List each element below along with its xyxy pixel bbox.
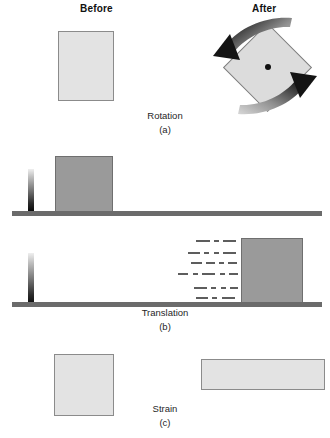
motion-dash — [206, 262, 215, 264]
motion-dash — [211, 287, 216, 289]
motion-dash — [191, 262, 202, 264]
motion-dash — [223, 252, 236, 254]
motion-dash — [194, 287, 207, 289]
motion-dash — [220, 273, 225, 275]
motion-dash — [188, 252, 200, 254]
caption-rotation-sub: (a) — [0, 124, 330, 135]
motion-dash — [196, 240, 210, 242]
caption-strain: Strain — [0, 403, 330, 414]
motion-dash — [178, 273, 188, 275]
motion-dash — [202, 273, 215, 275]
motion-dash — [214, 252, 219, 254]
motion-dash — [221, 287, 226, 289]
column-header-before: Before — [80, 3, 113, 14]
motion-dash — [193, 273, 198, 275]
geology-deformation-figure: Before After — [0, 0, 330, 438]
motion-dash — [204, 252, 209, 254]
caption-translation: Translation — [0, 307, 330, 318]
motion-dash — [214, 240, 219, 242]
motion-dash — [212, 297, 217, 299]
translation-after-square — [241, 238, 303, 306]
translation-before-square — [55, 156, 113, 213]
motion-dash — [223, 240, 236, 242]
rotation-arrow-bottom-right — [238, 72, 317, 114]
rotation-arrow-top-left — [213, 18, 292, 60]
caption-rotation: Rotation — [0, 110, 330, 121]
motion-dash — [219, 262, 224, 264]
strain-after-rectangle — [201, 359, 325, 390]
motion-dash — [229, 273, 238, 275]
motion-dash — [222, 297, 235, 299]
motion-dash — [196, 297, 208, 299]
caption-translation-sub: (b) — [0, 321, 330, 332]
caption-strain-sub: (c) — [0, 417, 330, 428]
translation-reference-post-before — [28, 169, 34, 213]
rotation-before-square — [58, 31, 114, 101]
motion-dash — [228, 262, 237, 264]
ground-line-before — [12, 211, 322, 216]
motion-dash — [230, 287, 238, 289]
rotation-arrows — [200, 12, 330, 122]
